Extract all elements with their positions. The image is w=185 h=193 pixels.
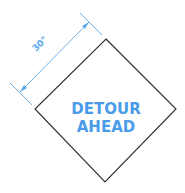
dimension-extension-lower — [10, 83, 32, 105]
sign-text-line1: DETOUR — [71, 100, 141, 118]
detour-sign-diagram: 30" DETOUR AHEAD — [0, 0, 185, 193]
dimension-label: 30" — [30, 34, 49, 53]
sign-text-line2: AHEAD — [77, 118, 135, 136]
dimension-extension-upper — [80, 13, 102, 35]
